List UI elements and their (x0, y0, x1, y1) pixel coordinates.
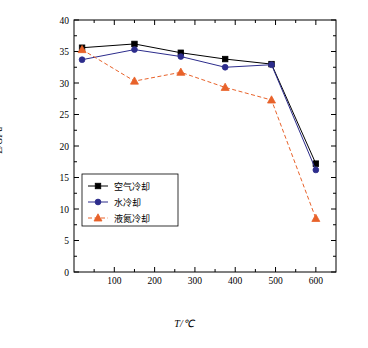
plot-frame (74, 20, 336, 272)
data-point-marker (95, 183, 101, 189)
y-tick-label: 15 (60, 173, 70, 183)
x-tick-label: 100 (107, 276, 122, 286)
plot-area: 0510152025303540100200300400500600空气冷却水冷… (42, 14, 342, 296)
x-tick-label: 500 (268, 276, 283, 286)
data-point-marker (313, 167, 319, 173)
data-point-marker (132, 47, 138, 53)
x-tick-label: 400 (228, 276, 243, 286)
chart-figure: E/GPa T/℃ 051015202530354010020030040050… (0, 0, 368, 348)
y-tick-label: 40 (60, 16, 70, 26)
x-axis-label: T/℃ (0, 318, 368, 329)
y-tick-label: 10 (60, 205, 70, 215)
data-point-marker (312, 214, 320, 221)
data-point-marker (268, 96, 276, 103)
data-point-marker (79, 57, 85, 63)
y-tick-label: 20 (60, 142, 70, 152)
y-tick-label: 5 (64, 236, 69, 246)
x-tick-label: 600 (309, 276, 324, 286)
series-line (82, 50, 316, 170)
x-tick-label: 300 (188, 276, 203, 286)
legend: 空气冷却水冷却液氮冷却 (82, 174, 178, 226)
legend-label: 液氮冷却 (114, 213, 150, 224)
data-point-marker (269, 62, 275, 68)
data-point-marker (132, 41, 138, 47)
series-line (82, 44, 316, 164)
data-point-marker (130, 77, 138, 84)
y-tick-label: 30 (60, 79, 70, 89)
series-1 (79, 41, 318, 166)
y-axis-label-symbol: E/GPa (0, 126, 4, 153)
data-point-marker (95, 199, 101, 205)
series-2 (79, 47, 319, 173)
chart-svg: 0510152025303540100200300400500600空气冷却水冷… (42, 14, 342, 296)
y-tick-label: 0 (64, 268, 69, 278)
data-point-marker (222, 56, 228, 62)
y-tick-label: 35 (60, 47, 70, 57)
y-tick-label: 25 (60, 110, 70, 120)
data-point-marker (178, 54, 184, 60)
legend-label: 空气冷却 (114, 181, 150, 192)
x-axis-label-symbol: T/℃ (174, 318, 193, 329)
legend-label: 水冷却 (114, 197, 141, 208)
data-point-marker (177, 68, 185, 75)
data-point-marker (222, 64, 228, 70)
x-tick-label: 200 (147, 276, 162, 286)
y-axis-label: E/GPa (0, 126, 4, 153)
